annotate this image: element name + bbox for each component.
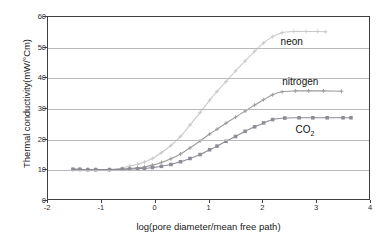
data-point [271, 118, 275, 122]
x-axis-title: log(pore diameter/mean free path) [47, 221, 370, 232]
data-point [169, 157, 173, 161]
gridline-y-30 [48, 109, 369, 110]
series-label-nitrogen: nitrogen [282, 76, 318, 87]
x-tick-label-4: 4 [359, 203, 381, 212]
data-point [339, 89, 343, 93]
x-tick-label-1: 1 [198, 203, 220, 212]
x-tick-mark-0 [155, 200, 156, 203]
data-point [142, 160, 146, 164]
data-point [292, 30, 296, 34]
x-tick-mark-1 [209, 200, 210, 203]
x-tick-mark-4 [370, 200, 371, 203]
data-point [293, 89, 297, 93]
data-point [160, 165, 164, 169]
data-point [188, 157, 192, 161]
series-line-neon [73, 31, 326, 169]
data-point [253, 125, 257, 129]
x-tick-mark--1 [101, 200, 102, 203]
data-point [243, 130, 247, 134]
plot-area: neonnitrogenCO2 [47, 16, 370, 200]
data-point [215, 144, 219, 148]
series-neon [71, 30, 328, 172]
data-point [169, 163, 173, 167]
series-label-neon: neon [281, 36, 303, 47]
x-tick-label-0: 0 [144, 203, 166, 212]
data-point [179, 160, 183, 164]
x-tick-mark-2 [262, 200, 263, 203]
gridline-y-10 [48, 170, 369, 171]
data-point [297, 116, 301, 120]
data-point [307, 89, 311, 93]
data-point [198, 153, 202, 157]
series-label-co2: CO2 [296, 124, 315, 137]
data-point [159, 160, 163, 164]
chart-figure: Thermal conductivity(mW/°Cm) log(pore di… [0, 0, 388, 241]
gridline-y-20 [48, 140, 369, 141]
x-tick-mark--2 [47, 200, 48, 203]
data-point [208, 148, 212, 152]
data-point [151, 166, 155, 170]
data-point [321, 89, 325, 93]
data-point [280, 90, 284, 94]
data-point [283, 116, 287, 120]
data-point [262, 121, 266, 125]
data-point [311, 116, 315, 120]
data-point [136, 162, 140, 166]
data-point [271, 93, 275, 97]
data-point [349, 116, 353, 120]
x-axis-title-text: log(pore diameter/mean free path) [136, 221, 280, 232]
data-point [324, 30, 328, 34]
data-point [341, 116, 345, 120]
x-tick-label--1: -1 [90, 203, 112, 212]
x-tick-mark-3 [316, 200, 317, 203]
data-point [316, 30, 320, 34]
gridline-y-50 [48, 48, 369, 49]
x-tick-label--2: -2 [36, 203, 58, 212]
gridline-y-40 [48, 78, 369, 79]
data-point [280, 31, 284, 35]
data-point [304, 30, 308, 34]
x-tick-label-3: 3 [305, 203, 327, 212]
data-point [325, 116, 329, 120]
data-point [234, 135, 238, 139]
x-tick-label-2: 2 [251, 203, 273, 212]
